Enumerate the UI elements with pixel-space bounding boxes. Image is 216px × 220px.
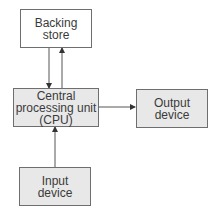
output-device-node: Output device [136, 89, 208, 128]
backing-store-node: Backing store [20, 9, 92, 48]
input-device-node: Input device [19, 167, 91, 206]
input-device-label: Input device [38, 175, 73, 199]
backing-store-label: Backing store [35, 17, 78, 41]
output-device-label: Output device [154, 97, 190, 121]
cpu-node: Central processing unit (CPU) [13, 88, 99, 127]
cpu-label: Central processing unit (CPU) [16, 90, 97, 126]
